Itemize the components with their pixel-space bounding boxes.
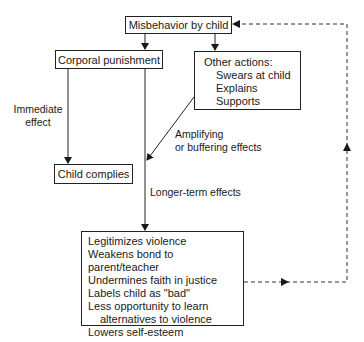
node-complies-label: Child complies: [58, 168, 130, 180]
label-longer-term: Longer-term effects: [150, 186, 241, 199]
other-action-item: Supports: [204, 95, 300, 108]
effect-item-continuation: alternatives to violence: [88, 313, 243, 326]
label-amplifying: Amplifying or buffering effects: [175, 128, 262, 153]
effect-item: Less opportunity to learn: [88, 300, 243, 313]
effect-item: Weakens bond to parent/teacher: [88, 248, 243, 274]
label-line: effect: [12, 116, 64, 129]
node-longer-term-effects: Legitimizes violence Weakens bond to par…: [81, 231, 244, 326]
other-action-item: Explains: [204, 82, 300, 95]
effect-item: Lowers self-esteem: [88, 326, 243, 339]
node-other-actions: Other actions: Swears at child Explains …: [194, 51, 301, 110]
other-action-item: Swears at child: [204, 69, 300, 82]
node-misbehavior-label: Misbehavior by child: [129, 19, 229, 31]
label-line: or buffering effects: [175, 141, 262, 154]
label-line: Immediate: [12, 103, 64, 116]
label-immediate-effect: Immediate effect: [12, 103, 64, 128]
node-corporal-punishment: Corporal punishment: [55, 50, 163, 69]
label-line: Amplifying: [175, 128, 262, 141]
node-corporal-label: Corporal punishment: [58, 54, 160, 66]
effect-item: Labels child as "bad": [88, 287, 243, 300]
other-actions-title: Other actions:: [204, 56, 300, 69]
effect-item: Undermines faith in justice: [88, 274, 243, 287]
effect-item: Legitimizes violence: [88, 235, 243, 248]
node-misbehavior: Misbehavior by child: [125, 16, 232, 34]
node-child-complies: Child complies: [54, 164, 133, 184]
